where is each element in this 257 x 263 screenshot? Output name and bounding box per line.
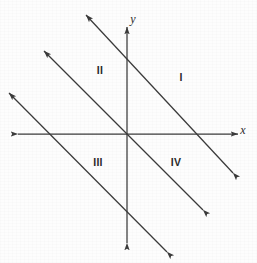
coordinate-plane-figure: x y I II III IV: [0, 0, 257, 263]
quadrant-label-i: I: [179, 71, 182, 83]
line-1: [86, 15, 233, 173]
x-axis-label: x: [240, 123, 245, 138]
coordinate-plane-svg: [0, 0, 257, 263]
y-axis-label: y: [130, 12, 135, 27]
quadrant-label-iii: III: [93, 156, 103, 168]
quadrant-label-iv: IV: [171, 156, 182, 168]
line-3: [9, 93, 167, 252]
quadrant-label-ii: II: [97, 64, 103, 76]
